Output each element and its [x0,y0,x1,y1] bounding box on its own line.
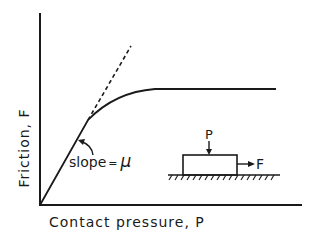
friction-curve [40,89,276,205]
load-arrowhead-icon [206,149,212,155]
slope-label: slope=μ [69,151,131,171]
sliding-block [183,155,237,175]
slope-extension-dashed [88,46,131,120]
inset-block-diagram: P F [168,127,280,180]
friction-pressure-diagram: slope=μ Friction, F Contact pressure, P [0,0,315,237]
arrowhead-icon [78,139,85,145]
force-arrowhead-icon [248,161,255,167]
force-label: F [256,156,264,172]
x-axis-label: Contact pressure, P [49,214,205,230]
y-axis-label: Friction, F [16,108,32,187]
load-label: P [205,127,213,142]
